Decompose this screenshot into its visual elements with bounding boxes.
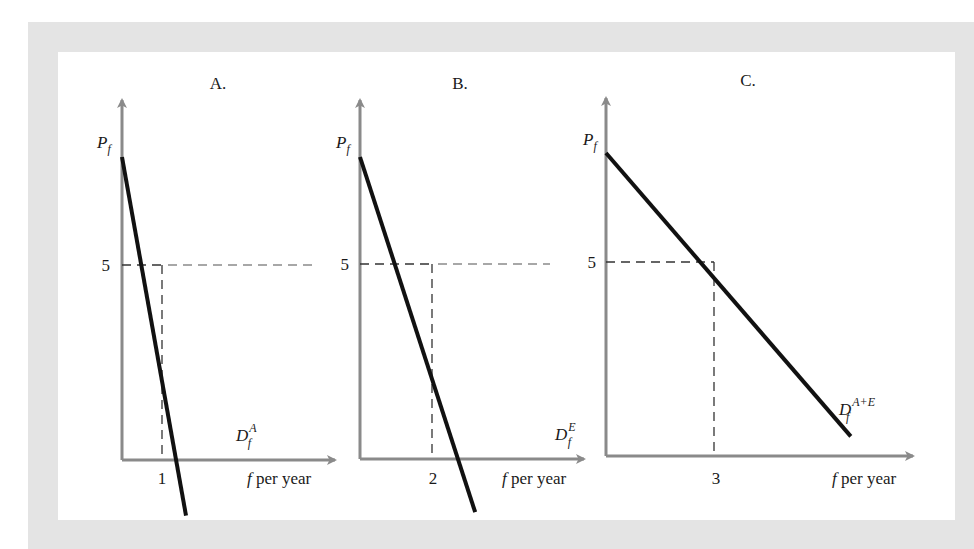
demand-curve-label: DA+Ef — [838, 395, 876, 424]
demand-label-sup: A+E — [851, 395, 875, 409]
demand-label-sup: A — [248, 421, 257, 435]
demand-label-sub: f — [248, 436, 253, 450]
x-axis-label: f per year — [247, 469, 312, 488]
panel-a: A. Pf 5 1 f per year DAf — [96, 74, 312, 488]
y-axis-label: Pf — [335, 133, 351, 156]
y-axis-label-main: P — [96, 133, 107, 152]
quantity-tick-label: 1 — [158, 469, 167, 488]
x-axis-label-rest: per year — [507, 469, 567, 488]
panel-title: B. — [452, 74, 468, 93]
price-tick-label: 5 — [102, 256, 111, 275]
quantity-tick-label: 2 — [429, 469, 438, 488]
x-axis-label-rest: per year — [837, 469, 897, 488]
panel-b: B. Pf 5 2 f per year DEf — [335, 74, 576, 488]
x-axis-label: f per year — [832, 469, 897, 488]
price-tick-label: 5 — [341, 255, 350, 274]
y-axis-label: Pf — [96, 133, 112, 156]
demand-label-sup: E — [567, 420, 576, 434]
y-axis-label: Pf — [582, 130, 598, 153]
demand-label-sub: f — [568, 435, 573, 449]
y-axis-label-main: P — [582, 130, 593, 149]
y-axis-label-subscript: f — [346, 142, 351, 156]
demand-curve — [122, 157, 186, 516]
y-axis-label-main: P — [335, 133, 346, 152]
panel-title: A. — [210, 74, 227, 93]
y-axis-label-subscript: f — [107, 142, 112, 156]
demand-curve-label: DEf — [554, 420, 576, 449]
x-axis-label-rest: per year — [252, 469, 312, 488]
price-tick-label: 5 — [588, 253, 597, 272]
panel-c: C. Pf 5 3 f per year DA+Ef — [582, 71, 897, 488]
demand-charts: A. Pf 5 1 f per year DAf B. Pf 5 2 f per… — [0, 0, 974, 549]
demand-curve-label: DAf — [235, 421, 257, 450]
chart-marks — [122, 98, 913, 516]
y-axis-label-subscript: f — [593, 139, 598, 153]
demand-curve — [606, 153, 851, 436]
demand-label-main: D — [554, 425, 568, 444]
panel-title: C. — [740, 71, 756, 90]
quantity-tick-label: 3 — [712, 469, 721, 488]
x-axis-label: f per year — [502, 469, 567, 488]
demand-label-main: D — [838, 400, 852, 419]
